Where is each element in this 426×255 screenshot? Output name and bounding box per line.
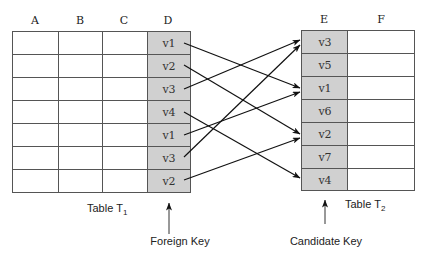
t1-key-cell: v3 [161,152,175,165]
arrow-v2-to-v2 [184,65,300,134]
column-header-a: A [30,14,40,27]
t1-key-cell: v2 [161,175,175,188]
column-header-f: F [377,13,385,26]
table-t2-label: Table T2 [345,198,386,213]
t2-key-cell: v2 [317,128,331,141]
t1-key-cell: v1 [161,37,175,50]
arrow-v4-to-v4 [184,112,300,178]
t2-key-cell: v6 [317,105,331,118]
t2-key-cell: v5 [317,59,331,72]
table-t2: E F v3 v5 v1 v6 v2 v7 v4 Table T2 [301,13,415,213]
t1-key-cell: v4 [161,106,175,119]
column-header-d: D [164,14,173,27]
foreign-key-label: Foreign Key [150,235,210,247]
t1-key-cell: v2 [161,60,175,73]
t2-key-cell: v1 [317,82,331,95]
t2-key-cell: v7 [317,151,331,164]
t1-key-cell: v3 [161,83,175,96]
column-header-c: C [120,14,128,27]
arrow-v2-to-v2 [184,138,300,180]
column-header-b: B [76,14,84,27]
table-t1-label: Table T1 [87,202,128,217]
candidate-key-label: Candidate Key [290,235,363,247]
t2-key-cell: v3 [317,36,331,49]
arrow-v3-to-v3 [184,45,300,157]
column-header-e: E [320,13,328,26]
t1-key-cell: v1 [161,129,175,142]
arrow-v1-to-v1 [184,92,300,135]
t2-key-cell: v4 [317,174,331,187]
mapping-arrows [184,40,300,180]
relational-key-diagram: A B C D v1 v2 v3 v4 v1 v3 v2 Table T1 E … [0,0,426,255]
table-t1: A B C D v1 v2 v3 v4 v1 v3 v2 Table T1 [12,14,191,217]
